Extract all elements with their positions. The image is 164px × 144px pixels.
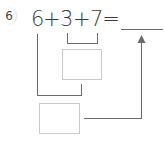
- arrow-up-icon: [0, 0, 164, 144]
